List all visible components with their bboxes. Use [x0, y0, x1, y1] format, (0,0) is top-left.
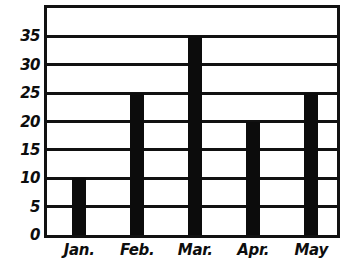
x-tick-label-feb: Feb. [120, 243, 155, 258]
x-tick-label-mar: Mar. [178, 243, 213, 258]
y-tick-label-20: 20 [2, 114, 40, 129]
y-tick-label-10: 10 [2, 171, 40, 186]
y-tick-label-35: 35 [2, 29, 40, 44]
bar-chart: 35302520151050 Jan.Feb.Mar.Apr.May [0, 0, 349, 274]
y-axis-tick-labels: 35302520151050 [0, 0, 349, 274]
y-tick-label-5: 5 [2, 199, 40, 214]
x-tick-label-jan: Jan. [64, 243, 95, 258]
y-tick-label-0: 0 [2, 228, 40, 243]
x-tick-label-may: May [294, 243, 327, 258]
y-tick-label-15: 15 [2, 142, 40, 157]
x-tick-label-apr: Apr. [237, 243, 269, 258]
y-tick-label-30: 30 [2, 57, 40, 72]
y-tick-label-25: 25 [2, 86, 40, 101]
